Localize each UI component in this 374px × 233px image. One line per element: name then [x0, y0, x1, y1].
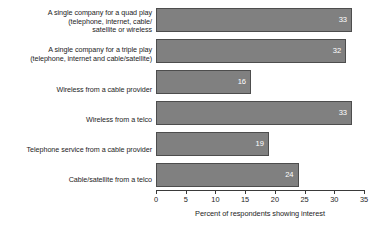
- bar-value-label: 24: [285, 171, 293, 179]
- x-axis-tick: [215, 190, 216, 194]
- x-tick-label: 0: [144, 195, 168, 204]
- bar-row: 33: [156, 8, 352, 32]
- x-axis-tick: [186, 190, 187, 194]
- bar-value-label: 33: [339, 16, 347, 24]
- x-axis-title: Percent of respondents showing interest: [156, 209, 364, 218]
- bar[interactable]: 33: [156, 8, 352, 32]
- bar-value-label: 16: [238, 78, 246, 86]
- x-tick-label: 25: [293, 195, 317, 204]
- x-axis-tick: [305, 190, 306, 194]
- category-label: Cable/satellite from a telco: [0, 176, 152, 185]
- x-axis-tick: [245, 190, 246, 194]
- x-axis-tick: [275, 190, 276, 194]
- bar-chart: A single company for a quad play (teleph…: [0, 0, 374, 233]
- bar-row: 24: [156, 163, 299, 187]
- x-axis-tick: [334, 190, 335, 194]
- plot-area: 33 32 16 33 19 24: [156, 8, 364, 190]
- category-label: Telephone service from a cable provider: [0, 146, 152, 155]
- x-axis-line: [156, 190, 364, 191]
- bar-row: 33: [156, 101, 352, 125]
- bar[interactable]: 19: [156, 132, 269, 156]
- category-label: Wireless from a telco: [0, 116, 152, 125]
- x-tick-label: 20: [263, 195, 287, 204]
- bar-value-label: 33: [339, 109, 347, 117]
- bar[interactable]: 16: [156, 70, 251, 94]
- x-axis-tick: [156, 190, 157, 194]
- bar-row: 16: [156, 70, 251, 94]
- bar-row: 32: [156, 39, 346, 63]
- bar-row: 19: [156, 132, 269, 156]
- x-axis-tick: [364, 190, 365, 194]
- bar[interactable]: 24: [156, 163, 299, 187]
- category-label: A single company for a quad play (teleph…: [0, 9, 152, 35]
- category-label: A single company for a triple play (tele…: [0, 46, 152, 63]
- x-tick-label: 15: [233, 195, 257, 204]
- category-label: Wireless from a cable provider: [0, 86, 152, 95]
- x-tick-label: 10: [203, 195, 227, 204]
- x-tick-label: 30: [322, 195, 346, 204]
- bar-value-label: 19: [255, 140, 263, 148]
- category-axis-labels: A single company for a quad play (teleph…: [0, 8, 152, 190]
- x-tick-label: 5: [174, 195, 198, 204]
- x-tick-label: 35: [352, 195, 374, 204]
- bar-value-label: 32: [333, 47, 341, 55]
- bar[interactable]: 33: [156, 101, 352, 125]
- bar[interactable]: 32: [156, 39, 346, 63]
